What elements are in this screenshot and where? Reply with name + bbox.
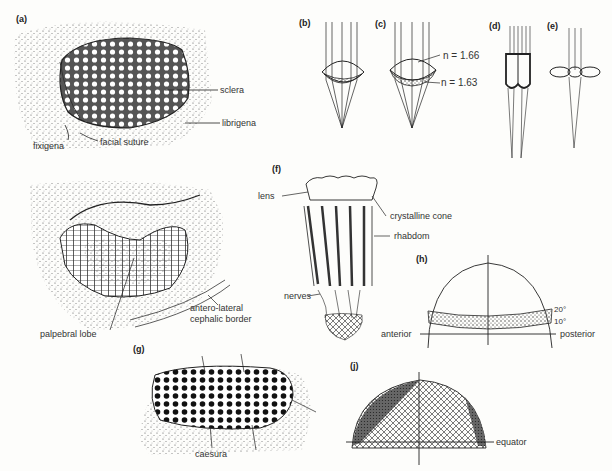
panel-e-lens-ray-diagram xyxy=(550,28,600,148)
panel-label-j: (j) xyxy=(350,362,359,371)
label-librigena: librigena xyxy=(222,119,256,128)
figure-drawings xyxy=(0,0,612,471)
label-rhabdom: rhabdom xyxy=(394,232,430,241)
panel-label-f: (f) xyxy=(272,165,281,174)
panel-a-eye-drawing xyxy=(14,22,220,150)
panel-label-e: (e) xyxy=(547,22,558,31)
panel-label-h: (h) xyxy=(416,255,428,264)
panel-f-ommatidia-drawing xyxy=(282,176,390,340)
panel-g-eye-drawing xyxy=(140,354,316,455)
label-posterior: posterior xyxy=(560,330,595,339)
panel-d-lens-ray-diagram xyxy=(506,26,530,158)
label-10-degrees: 10° xyxy=(554,318,566,326)
panel-label-a: (a) xyxy=(16,15,27,24)
panel-j-visual-field-diagram xyxy=(346,372,494,465)
panel-label-d: (d) xyxy=(489,22,501,31)
trilobite-eye-figure: (a) (b) (c) (d) (e) (f) (g) (h) (j) scle… xyxy=(0,0,612,471)
label-equator: equator xyxy=(496,438,527,447)
panel-label-g: (g) xyxy=(133,345,145,354)
panel-label-b: (b) xyxy=(299,19,311,28)
label-caesura: caesura xyxy=(195,450,227,459)
label-20-degrees: 20° xyxy=(554,306,566,314)
label-anterior: anterior xyxy=(381,330,412,339)
label-antero-lateral: antero-lateral xyxy=(190,304,243,313)
label-cephalic-border: cephalic border xyxy=(190,315,252,324)
label-n-163: n = 1.63 xyxy=(441,78,477,88)
panel-b-lens-ray-diagram xyxy=(322,22,364,128)
label-crystalline-cone: crystalline cone xyxy=(390,212,452,221)
label-lens: lens xyxy=(258,192,275,201)
label-facial-suture: facial suture xyxy=(100,138,149,147)
label-nerves: nerves xyxy=(284,292,311,301)
panel-h-visual-field-diagram xyxy=(420,255,556,348)
panel-label-c: (c) xyxy=(375,20,386,29)
label-palpebral-lobe: palpebral lobe xyxy=(40,330,97,339)
panel-c-lens-ray-diagram xyxy=(390,22,440,128)
label-sclera: sclera xyxy=(220,86,244,95)
label-fixigena: fixigena xyxy=(33,142,64,151)
label-n-166: n = 1.66 xyxy=(443,51,479,61)
